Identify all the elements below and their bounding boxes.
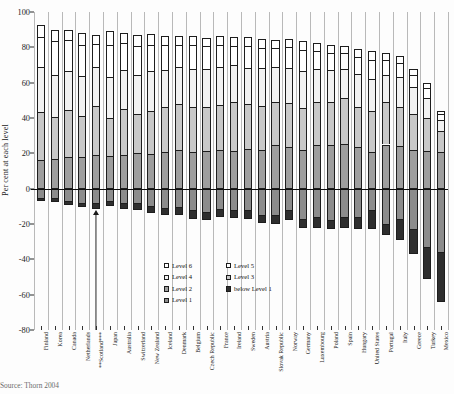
bar-segment xyxy=(313,69,321,103)
bar-segment xyxy=(92,106,100,155)
bar-column[interactable] xyxy=(409,12,417,330)
bar-segment xyxy=(327,145,335,188)
bar-column[interactable] xyxy=(37,12,45,330)
category-separator-line xyxy=(48,12,49,330)
bar-segment xyxy=(133,189,141,203)
bar-segment xyxy=(396,56,404,63)
bar-column[interactable] xyxy=(64,12,72,330)
legend-item[interactable]: Level 6 xyxy=(164,263,226,270)
bar-segment xyxy=(230,210,238,218)
legend-item[interactable]: Level 4 xyxy=(164,274,226,281)
bar-segment xyxy=(202,189,210,212)
bar-segment xyxy=(133,114,141,153)
bar-segment xyxy=(423,98,431,118)
bar-segment xyxy=(396,219,404,240)
bar-column[interactable] xyxy=(396,12,404,330)
legend-item[interactable]: Level 1 xyxy=(164,297,226,304)
bar-segment xyxy=(78,116,86,157)
legend-item[interactable]: Level 2 xyxy=(164,286,226,293)
bar-segment xyxy=(106,201,114,206)
bar-column[interactable] xyxy=(78,12,86,330)
x-axis-category-label: Denmark xyxy=(181,332,187,354)
bar-segment xyxy=(327,45,335,53)
x-axis-category-label: Korea xyxy=(57,332,63,347)
legend-item[interactable]: Level 3 xyxy=(226,274,254,281)
x-axis-category-label: New Zealand xyxy=(154,332,160,364)
bar-segment xyxy=(189,45,197,69)
bar-segment xyxy=(106,156,114,189)
bar-segment xyxy=(51,41,59,75)
bar-column[interactable] xyxy=(120,12,128,330)
bar-segment xyxy=(382,75,390,102)
bar-segment xyxy=(313,189,321,217)
bar-segment xyxy=(202,212,210,220)
x-axis-category-label: Portugal xyxy=(388,332,394,352)
y-axis-title: Per cent at each level xyxy=(1,95,15,225)
bar-column[interactable] xyxy=(313,12,321,330)
legend-item[interactable]: below Level 1 xyxy=(226,286,272,293)
bar-segment xyxy=(51,75,59,117)
category-separator-line xyxy=(434,12,435,330)
bar-segment xyxy=(37,198,45,201)
bar-column[interactable] xyxy=(299,12,307,330)
x-axis-category-label: Sweden xyxy=(250,332,256,351)
bar-segment xyxy=(64,189,72,201)
bar-column[interactable] xyxy=(147,12,155,330)
bar-segment xyxy=(230,151,238,189)
bar-segment xyxy=(285,147,293,189)
bar-segment xyxy=(78,157,86,189)
x-axis-category-labels: FinlandKoreaCanadaNetherlands**Scotland*… xyxy=(34,330,448,392)
bar-segment xyxy=(423,151,431,189)
category-separator-line xyxy=(407,12,408,330)
bar-segment xyxy=(258,106,266,150)
bar-segment xyxy=(78,203,86,207)
category-separator-line xyxy=(117,12,118,330)
bar-segment xyxy=(244,68,252,104)
bar-segment xyxy=(37,112,45,161)
bar-segment xyxy=(92,44,100,67)
bar-segment xyxy=(423,189,431,247)
bar-segment xyxy=(189,210,197,219)
bar-segment xyxy=(285,103,293,147)
x-axis-category-label: Austria xyxy=(264,332,270,350)
bar-column[interactable] xyxy=(368,12,376,330)
bar-segment xyxy=(147,71,155,111)
bar-column[interactable] xyxy=(51,12,59,330)
bar-segment xyxy=(258,39,266,48)
bar-segment xyxy=(423,247,431,279)
bar-segment xyxy=(189,69,197,108)
bar-column[interactable] xyxy=(106,12,114,330)
bar-column[interactable] xyxy=(340,12,348,330)
bar-segment xyxy=(258,189,266,216)
bar-segment xyxy=(258,48,266,67)
bar-segment xyxy=(285,210,293,220)
x-axis-category-label: Norway xyxy=(292,332,298,351)
bar-segment xyxy=(202,69,210,107)
bar-segment xyxy=(244,104,252,149)
bar-segment xyxy=(396,77,404,107)
bar-segment xyxy=(299,189,307,219)
bar-column[interactable] xyxy=(327,12,335,330)
bar-segment xyxy=(368,111,376,152)
legend-item[interactable]: Level 5 xyxy=(226,263,254,270)
legend-row: Level 2below Level 1 xyxy=(164,283,300,295)
bar-segment xyxy=(437,111,445,115)
bar-column[interactable] xyxy=(437,12,445,330)
bar-column[interactable] xyxy=(354,12,362,330)
bar-segment xyxy=(437,131,445,152)
bar-segment xyxy=(368,60,376,79)
legend-row: Level 1 xyxy=(164,295,300,307)
bar-column[interactable] xyxy=(133,12,141,330)
bar-segment xyxy=(271,67,279,102)
category-separator-line xyxy=(34,12,35,330)
bar-column[interactable] xyxy=(382,12,390,330)
bar-segment xyxy=(271,145,279,188)
bar-column[interactable] xyxy=(423,12,431,330)
bar-segment xyxy=(78,45,86,77)
bar-segment xyxy=(216,189,224,209)
x-axis-category-label: Finland xyxy=(43,332,49,350)
bar-segment xyxy=(340,217,348,228)
bar-segment xyxy=(258,215,266,223)
bar-segment xyxy=(423,88,431,98)
bar-segment xyxy=(299,50,307,71)
